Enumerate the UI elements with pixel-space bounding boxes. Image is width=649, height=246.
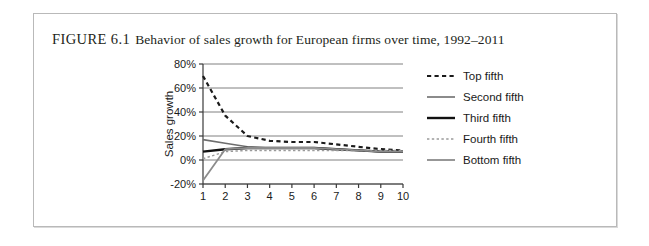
y-tick-label: 0% (180, 154, 196, 166)
figure-number: FIGURE 6.1 (52, 31, 130, 47)
legend-label: Bottom fifth (463, 154, 521, 166)
y-tick-label: -20% (170, 178, 196, 190)
x-tick-label: 10 (397, 190, 409, 202)
x-tick-label: 6 (311, 190, 317, 202)
chart-plot-region: -20%0%20%40%60%80% 12345678910 Top fifth… (147, 56, 607, 208)
chart-series-lines (203, 76, 403, 180)
y-tick-label: 20% (174, 130, 196, 142)
x-tick-label: 5 (289, 190, 295, 202)
chart-x-tick-labels: 12345678910 (200, 190, 409, 202)
chart-axes (203, 64, 403, 184)
chart-y-tick-labels: -20%0%20%40%60%80% (170, 58, 203, 190)
figure-caption: FIGURE 6.1Behavior of sales growth for E… (52, 31, 505, 48)
chart-legend: Top fifthSecond fifthThird fifthFourth f… (427, 70, 524, 166)
x-tick-label: 9 (378, 190, 384, 202)
legend-label: Fourth fifth (463, 133, 518, 145)
sales-growth-line-chart: -20%0%20%40%60%80% 12345678910 Top fifth… (147, 56, 607, 208)
figure-caption-text: Behavior of sales growth for European fi… (130, 32, 505, 47)
chart-gridlines (203, 64, 403, 184)
legend-label: Second fifth (463, 91, 524, 103)
series-line (203, 148, 403, 180)
figure-frame: FIGURE 6.1Behavior of sales growth for E… (33, 13, 617, 227)
y-tick-label: 80% (174, 58, 196, 70)
x-tick-label: 4 (267, 190, 273, 202)
x-tick-label: 8 (355, 190, 361, 202)
y-tick-label: 40% (174, 106, 196, 118)
legend-label: Third fifth (463, 112, 511, 124)
legend-label: Top fifth (463, 70, 503, 82)
x-tick-label: 3 (244, 190, 250, 202)
y-tick-label: 60% (174, 82, 196, 94)
series-line (203, 76, 403, 150)
x-tick-label: 1 (200, 190, 206, 202)
x-tick-label: 2 (222, 190, 228, 202)
x-tick-label: 7 (333, 190, 339, 202)
y-axis-label: Sales growth (163, 91, 175, 157)
